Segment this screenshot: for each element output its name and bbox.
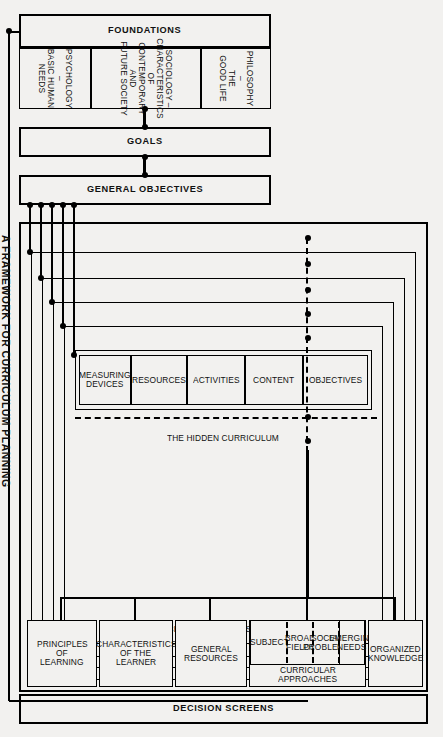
foundations-item-label: PSYCHOLOGY – BASIC HUMAN NEEDS: [20, 49, 90, 108]
connector-dot: [38, 202, 44, 208]
bus-dot: [305, 287, 311, 293]
bus-dot: [305, 414, 311, 420]
curricular-approach-separator: [338, 622, 340, 663]
hidden-curriculum-divider: [75, 417, 377, 419]
screen-stub-knowledge: [394, 597, 396, 620]
connector-dot: [38, 275, 44, 281]
curriculum-element-activities: ACTIVITIES: [187, 355, 245, 405]
framework-diagram: FOUNDATIONS PHILOSOPHY – THE GOOD LIFE S…: [0, 0, 443, 737]
curriculum-element-objectives: OBJECTIVES: [303, 355, 368, 405]
hidden-curriculum-label: THE HIDDEN CURRICULUM: [83, 425, 363, 451]
bus-dot: [305, 438, 311, 444]
curriculum-element-content: CONTENT: [245, 355, 303, 405]
bus-dot: [305, 261, 311, 267]
decision-screen-label: ORGANIZED KNOWLEDGE: [369, 621, 422, 686]
curricular-approach-label: EMERGING NEEDS: [340, 621, 364, 664]
decision-screen-principles: PRINCIPLES OF LEARNING: [27, 620, 97, 687]
curriculum-element-label: CONTENT: [246, 356, 302, 404]
bus-dot: [305, 311, 311, 317]
feedback-dot: [6, 28, 12, 34]
bus-dot: [305, 335, 311, 341]
curriculum-element-measuring-devices: MEASURING DEVICES: [79, 355, 131, 405]
branch-districtwide: [40, 205, 42, 278]
bus-dot: [305, 235, 311, 241]
decision-screens-panel: DECISION SCREENS: [19, 694, 428, 724]
connector-dot: [27, 249, 33, 255]
branch-objectives: [73, 205, 75, 355]
curriculum-element-label: RESOURCES: [132, 356, 186, 404]
foundations-item-label: PHILOSOPHY – THE GOOD LIFE: [202, 49, 270, 108]
decision-screen-label: CHARACTERISTICS OF THE LEARNER: [100, 621, 172, 686]
diagram-rotation-wrapper: FOUNDATIONS PHILOSOPHY – THE GOOD LIFE S…: [0, 0, 443, 737]
connector-dot: [60, 323, 66, 329]
goals-box: GOALS: [19, 127, 271, 157]
goals-title: GOALS: [21, 129, 269, 155]
curricular-approach-separator: [286, 622, 288, 663]
screen-stub-learner: [134, 597, 136, 620]
screen-stub-principles: [60, 597, 62, 620]
connector-dot: [71, 202, 77, 208]
curricular-approach-subject: SUBJECT: [250, 620, 288, 665]
screen-bracket-vertical: [61, 597, 396, 599]
connector-dot: [60, 202, 66, 208]
curricular-approach-separator: [312, 622, 314, 663]
foundations-item-sociology: SOCIOLOGY – CHARACTERISTICS OF CONTEMPOR…: [91, 48, 201, 109]
curriculum-element-label: OBJECTIVES: [304, 356, 367, 404]
curricular-approach-emerging-needs: EMERGING NEEDS: [339, 620, 365, 665]
foundations-item-philosophy: PHILOSOPHY – THE GOOD LIFE: [201, 48, 271, 109]
decision-screen-organized-knowledge: ORGANIZED KNOWLEDGE: [368, 620, 423, 687]
diagram-caption: A FRAMEWORK FOR CURRICULUM PLANNING: [0, 235, 11, 488]
general-objectives-box: GENERAL OBJECTIVES: [19, 175, 271, 205]
general-objectives-title: GENERAL OBJECTIVES: [21, 177, 269, 203]
branch-allschool: [51, 205, 53, 302]
decision-screen-label: PRINCIPLES OF LEARNING: [28, 621, 96, 686]
feedback-riser-right: [9, 700, 308, 702]
screen-bus-to-main: [306, 450, 309, 597]
connector-dot: [49, 299, 55, 305]
screen-stub-resources: [209, 597, 211, 620]
foundations-item-psychology: PSYCHOLOGY – BASIC HUMAN NEEDS: [19, 48, 91, 109]
branch-teaching: [62, 205, 64, 326]
curriculum-element-label: MEASURING DEVICES: [80, 356, 130, 404]
connector-dot: [49, 202, 55, 208]
connector-dot: [71, 352, 77, 358]
connector-dot: [142, 172, 148, 178]
decision-screen-label: CURRICULAR APPROACHES: [250, 664, 365, 686]
connector-dot: [142, 154, 148, 160]
connector-dot: [142, 124, 148, 130]
curriculum-element-resources: RESOURCES: [131, 355, 187, 405]
foundations-item-label: SOCIOLOGY – CHARACTERISTICS OF CONTEMPOR…: [92, 49, 200, 108]
decision-screen-characteristics-learner: CHARACTERISTICS OF THE LEARNER: [99, 620, 173, 687]
branch-national: [29, 205, 31, 252]
connector-dot: [27, 202, 33, 208]
curricular-approach-label: SUBJECT: [251, 621, 287, 664]
connector-dot: [142, 106, 148, 112]
decision-screen-general-resources: GENERAL RESOURCES: [175, 620, 247, 687]
decision-screen-label: GENERAL RESOURCES: [176, 621, 246, 686]
curriculum-element-label: ACTIVITIES: [188, 356, 244, 404]
